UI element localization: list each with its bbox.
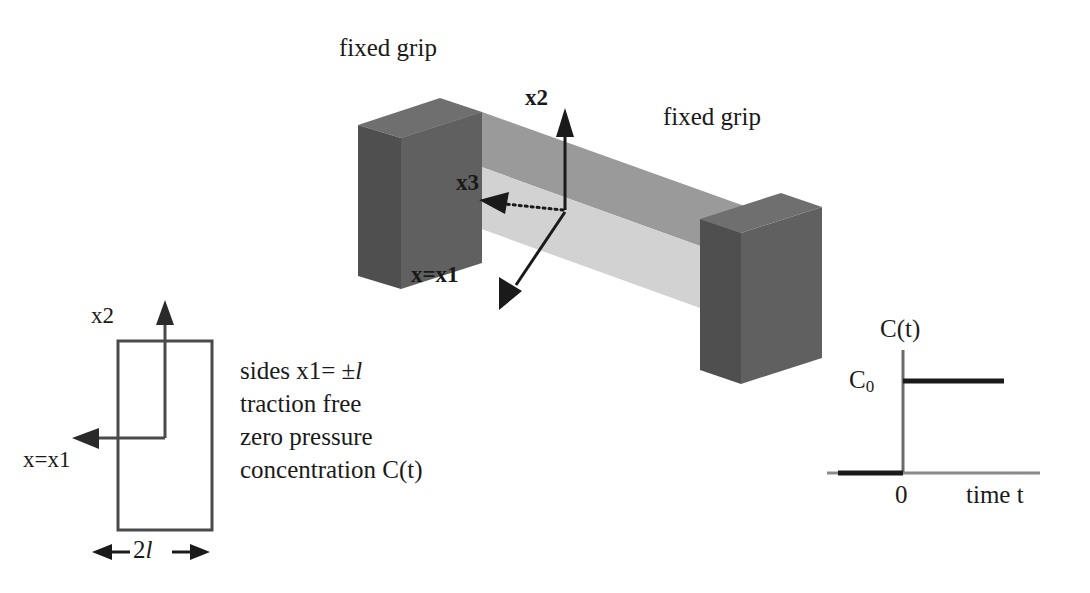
cross-section-diagram xyxy=(72,300,212,560)
width-label-number: 2 xyxy=(133,536,146,563)
cross-section-x1-arrowhead xyxy=(72,428,99,449)
condition-line-1-text: sides x1= ± xyxy=(240,357,355,384)
plot-x-axis-label: time t xyxy=(966,481,1024,509)
axis-x2-label: x2 xyxy=(525,85,548,111)
axis-x1-label: x=x1 xyxy=(411,262,459,288)
grip-left-label: fixed grip xyxy=(339,34,437,62)
grip-right-front-face xyxy=(700,219,741,384)
grip-left-front-face xyxy=(358,125,401,289)
plot-y-axis-label: C(t) xyxy=(880,315,920,343)
cross-section-x2-label: x2 xyxy=(91,303,114,329)
plot-y-tick-subscript: 0 xyxy=(866,377,875,396)
width-dimension-arrowhead-right xyxy=(190,544,210,560)
condition-line-1-symbol: l xyxy=(355,357,362,384)
axis-x2-arrowhead xyxy=(556,108,574,137)
cross-section-x2-arrowhead xyxy=(156,300,174,325)
axis-x3-label: x3 xyxy=(456,170,479,196)
width-label-symbol: l xyxy=(146,536,153,563)
width-dimension-arrowhead-left xyxy=(92,544,112,560)
plot-x-tick-label: 0 xyxy=(895,481,908,509)
figure-canvas: fixed grip fixed grip x2 x3 x=x1 x2 x=x1… xyxy=(0,0,1090,593)
condition-line-3: zero pressure xyxy=(240,423,423,451)
grip-right-side-face xyxy=(741,207,822,384)
specimen-assembly xyxy=(358,98,822,384)
condition-line-2: traction free xyxy=(240,390,423,418)
plot-y-tick-text: C xyxy=(849,366,866,393)
condition-line-1: sides x1= ±l xyxy=(240,357,423,385)
cross-section-width-label: 2l xyxy=(133,536,152,564)
grip-right-label: fixed grip xyxy=(663,103,761,131)
condition-line-4: concentration C(t) xyxy=(240,456,423,484)
plot-y-tick-label: C0 xyxy=(849,366,874,396)
cross-section-x1-label: x=x1 xyxy=(23,447,70,473)
boundary-conditions-block: sides x1= ±l traction free zero pressure… xyxy=(240,357,423,489)
